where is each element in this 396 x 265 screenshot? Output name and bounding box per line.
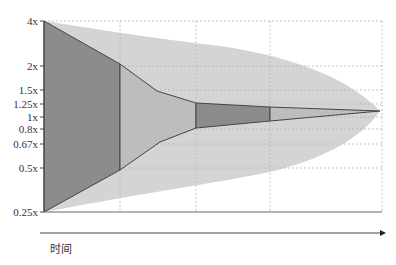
y-tick-0.5x: 0.5x [0,162,38,174]
y-tick-0.8x: 0.8x [0,123,38,135]
y-tick-0.67x: 0.67x [0,138,38,150]
y-ticks [40,21,44,212]
y-tick-0.25x: 0.25x [0,206,38,218]
y-tick-1.25x: 1.25x [0,98,38,110]
y-tick-2x: 2x [0,60,38,72]
y-tick-1.5x: 1.5x [0,84,38,96]
time-arrow-icon [380,230,386,236]
cone-of-uncertainty-chart [0,0,396,265]
time-axis-label: 时间 [50,240,72,256]
y-tick-1x: 1x [0,111,38,123]
y-tick-4x: 4x [0,15,38,27]
